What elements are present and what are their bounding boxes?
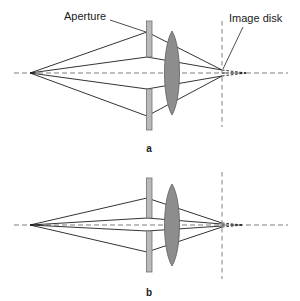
ray-outer-upper-a bbox=[30, 32, 222, 73]
aperture-blade-upper-b bbox=[147, 178, 153, 218]
aperture-blade-lower-a bbox=[147, 89, 153, 130]
ray-outer-upper-b bbox=[30, 198, 222, 225]
panel-b: b bbox=[14, 172, 288, 298]
ray-inner-upper-b bbox=[30, 218, 222, 225]
panel-letter-a: a bbox=[146, 143, 152, 154]
image-disk-label-a: Image disk bbox=[229, 12, 283, 24]
diagram-canvas: Aperture Image disk a bbox=[0, 0, 300, 301]
lens-a bbox=[165, 31, 180, 115]
panel-letter-b: b bbox=[146, 287, 152, 298]
ray-inner-upper-a bbox=[30, 57, 222, 73]
image-disk-leader-line-a bbox=[223, 27, 243, 69]
ray-outer-lower-b bbox=[30, 225, 222, 252]
aperture-label-a: Aperture bbox=[64, 10, 106, 22]
optical-diagram-figure: Aperture Image disk a bbox=[0, 0, 300, 301]
aperture-leader-line-a bbox=[110, 20, 146, 32]
panel-a: Aperture Image disk a bbox=[14, 10, 288, 154]
aperture-blade-lower-b bbox=[147, 231, 153, 272]
ray-inner-lower-a bbox=[30, 73, 222, 89]
ray-outer-lower-a bbox=[30, 73, 222, 116]
ray-inner-lower-b bbox=[30, 225, 222, 231]
aperture-blade-upper-a bbox=[147, 21, 153, 57]
lens-b bbox=[165, 184, 180, 266]
